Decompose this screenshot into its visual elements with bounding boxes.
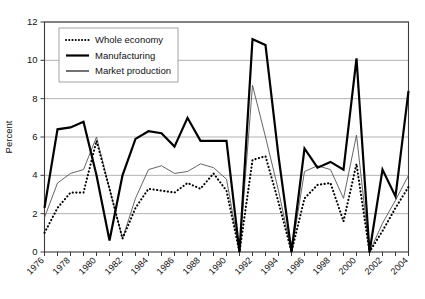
x-tick-label-1994: 1994: [259, 255, 280, 276]
x-tick-label-1992: 1992: [233, 255, 254, 276]
x-tick-label-2000: 2000: [337, 255, 358, 276]
y-axis-title: Percent: [3, 120, 14, 153]
x-tick-label-2004: 2004: [389, 255, 410, 276]
chart-container: 024681012 197619781980198219841986198819…: [0, 0, 425, 299]
y-tick-label-2: 2: [32, 208, 37, 219]
x-tick-label-1978: 1978: [51, 255, 72, 276]
series-line-market-production: [45, 85, 409, 252]
legend-label-market-production: Market production: [95, 65, 171, 76]
x-tick-label-1984: 1984: [129, 255, 150, 276]
legend-label-whole-economy: Whole economy: [95, 34, 163, 45]
y-tick-label-4: 4: [32, 169, 37, 180]
series-line-whole-economy: [45, 141, 409, 252]
y-tick-label-0: 0: [32, 246, 37, 257]
x-tick-label-1988: 1988: [181, 255, 202, 276]
x-tick-label-1980: 1980: [77, 255, 98, 276]
y-tick-label-10: 10: [27, 54, 38, 65]
line-chart: 024681012 197619781980198219841986198819…: [0, 0, 425, 299]
x-tick-label-1986: 1986: [155, 255, 176, 276]
x-tick-label-2002: 2002: [363, 255, 384, 276]
chart-legend[interactable]: Whole economyManufacturingMarket product…: [59, 28, 178, 82]
legend-label-manufacturing: Manufacturing: [95, 50, 155, 61]
x-axis-tick-labels: 1976197819801982198419861988199019921994…: [25, 252, 410, 277]
y-tick-label-12: 12: [27, 16, 38, 27]
x-tick-label-1982: 1982: [103, 255, 124, 276]
x-tick-label-1996: 1996: [285, 255, 306, 276]
y-axis-label: Percent: [3, 120, 14, 153]
x-tick-label-1976: 1976: [25, 255, 46, 276]
x-tick-label-1990: 1990: [207, 255, 228, 276]
y-axis-tick-labels: 024681012: [27, 16, 45, 257]
y-tick-label-8: 8: [32, 93, 37, 104]
x-tick-label-1998: 1998: [311, 255, 332, 276]
y-tick-label-6: 6: [32, 131, 37, 142]
